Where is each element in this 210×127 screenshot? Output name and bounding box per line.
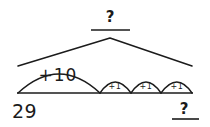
jump-label-plus-1-first: +1 [109,82,122,91]
start-number-label: 29 [12,100,37,122]
number-line-drawing: ? +10 +1 +1 +1 29 ? [0,0,210,127]
jump-label-plus-10: +10 [39,65,78,85]
number-line-diagram: ? +10 +1 +1 +1 29 ? [0,0,210,127]
jump-label-plus-1-third: +1 [171,82,184,91]
total-bracket-tent [18,38,192,66]
jump-label-plus-1-second: +1 [140,82,153,91]
total-question-mark: ? [106,8,115,26]
end-question-mark: ? [180,100,189,118]
